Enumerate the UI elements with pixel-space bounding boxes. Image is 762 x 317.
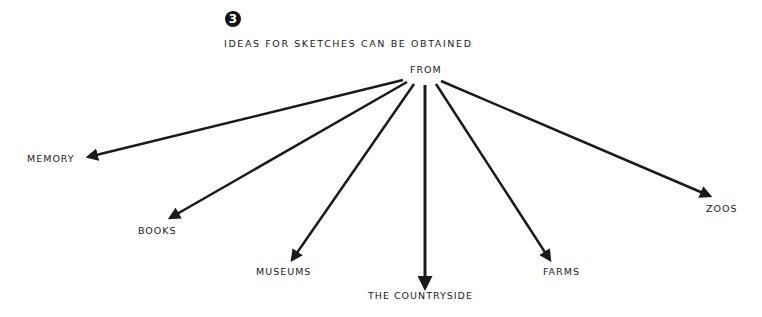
target-farms: FARMS (543, 266, 580, 277)
target-memory: MEMORY (27, 153, 75, 164)
target-books: BOOKS (138, 225, 177, 236)
arrow-lines (0, 0, 762, 317)
target-museums: MUSEUMS (256, 266, 311, 277)
arrow-to-zoos (441, 81, 710, 196)
arrow-to-museums (292, 84, 414, 260)
target-zoos: ZOOS (706, 203, 738, 214)
arrow-to-books (170, 82, 407, 218)
arrow-to-farms (436, 84, 550, 260)
arrow-to-memory (88, 80, 403, 157)
target-the-countryside: THE COUNTRYSIDE (368, 290, 473, 301)
